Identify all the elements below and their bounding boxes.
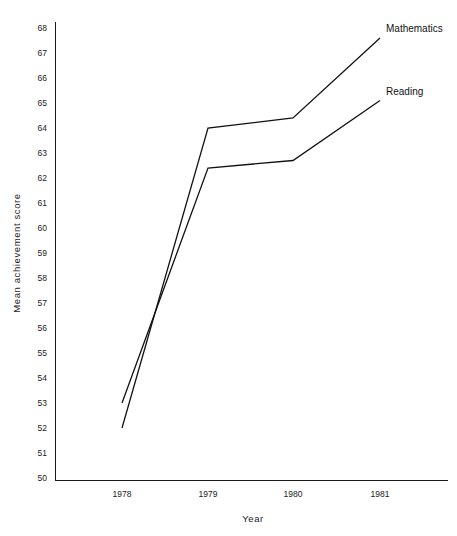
y-tick-labels: 68 67 66 65 64 63 62 61 60 59 58 57 56 5… bbox=[38, 23, 48, 483]
y-axis-title: Mean achievement score bbox=[11, 193, 22, 312]
y-tick-label: 58 bbox=[38, 273, 48, 283]
y-tick-label: 57 bbox=[38, 298, 48, 308]
chart-canvas: 68 67 66 65 64 63 62 61 60 59 58 57 56 5… bbox=[0, 0, 457, 536]
x-axis-title: Year bbox=[242, 513, 264, 524]
y-tick-label: 56 bbox=[38, 323, 48, 333]
y-tick-label: 51 bbox=[38, 448, 48, 458]
y-tick-label: 55 bbox=[38, 348, 48, 358]
series-line-mathematics bbox=[122, 38, 380, 428]
y-tick-label: 53 bbox=[38, 398, 48, 408]
x-tick-labels: 1978 1979 1980 1981 bbox=[113, 489, 390, 499]
y-tick-label: 50 bbox=[38, 473, 48, 483]
y-tick-label: 62 bbox=[38, 173, 48, 183]
x-tick-label-1978: 1978 bbox=[113, 489, 132, 499]
x-tick-label-1979: 1979 bbox=[199, 489, 218, 499]
series-line-reading bbox=[122, 101, 380, 404]
y-tick-label: 65 bbox=[38, 98, 48, 108]
y-tick-label: 59 bbox=[38, 248, 48, 258]
y-tick-label: 54 bbox=[38, 373, 48, 383]
y-tick-label: 52 bbox=[38, 423, 48, 433]
y-tick-label: 66 bbox=[38, 73, 48, 83]
y-tick-label: 60 bbox=[38, 223, 48, 233]
y-tick-label: 68 bbox=[38, 23, 48, 33]
x-tick-label-1980: 1980 bbox=[284, 489, 303, 499]
y-tick-label: 61 bbox=[38, 198, 48, 208]
y-tick-label: 64 bbox=[38, 123, 48, 133]
y-tick-label: 63 bbox=[38, 148, 48, 158]
x-tick-label-1981: 1981 bbox=[371, 489, 390, 499]
series-label-mathematics: Mathematics bbox=[386, 23, 443, 34]
y-tick-label: 67 bbox=[38, 48, 48, 58]
series-label-reading: Reading bbox=[386, 86, 423, 97]
line-chart: 68 67 66 65 64 63 62 61 60 59 58 57 56 5… bbox=[0, 0, 457, 536]
